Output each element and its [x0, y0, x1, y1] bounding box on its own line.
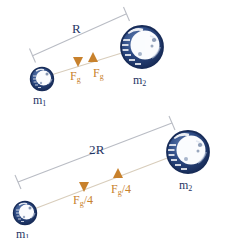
- force-arrow-on-m2-top: [88, 52, 98, 62]
- force-label-on-m2-bottom-subscript: g: [118, 188, 122, 197]
- force-label-on-m1-bottom: Fg/4: [73, 194, 93, 206]
- sphere-m1-bottom: [14, 202, 37, 225]
- force-label-on-m1-top-symbol: F: [70, 69, 77, 83]
- diagram-canvas: [0, 0, 225, 238]
- mass-label-m2-top: m2: [133, 74, 146, 86]
- separation-label-2r: 2R: [89, 143, 105, 156]
- sphere-m2-bottom: [167, 131, 209, 173]
- force-label-on-m1-bottom-subscript: g: [80, 199, 84, 208]
- force-arrow-on-m2-bottom: [113, 168, 123, 178]
- gravitation-diagram: R m1 m2 Fg Fg 2R m1 m2 Fg/4 Fg/4: [0, 0, 225, 238]
- sphere-m1-top: [31, 68, 54, 91]
- mass-label-m1-bottom: m1: [16, 228, 29, 238]
- force-label-on-m2-bottom-symbol: F: [111, 182, 118, 196]
- force-label-on-m1-top-subscript: g: [77, 75, 81, 84]
- mass-label-m2-top-subscript: 2: [142, 79, 146, 88]
- force-arrow-on-m1-bottom: [79, 182, 89, 192]
- force-label-on-m2-top: Fg: [93, 67, 104, 79]
- mass-label-m1-top: m1: [33, 94, 46, 106]
- mass-label-m1-bottom-symbol: m: [16, 227, 25, 238]
- force-label-on-m2-top-symbol: F: [93, 66, 100, 80]
- sphere-m2-top: [121, 26, 163, 68]
- force-label-on-m1-top: Fg: [70, 70, 81, 82]
- mass-label-m1-top-symbol: m: [33, 93, 42, 107]
- separation-axis-r: [51, 52, 125, 75]
- force-label-on-m1-bottom-suffix: /4: [84, 193, 93, 207]
- force-label-on-m1-bottom-symbol: F: [73, 193, 80, 207]
- mass-label-m2-bottom-symbol: m: [179, 178, 188, 192]
- mass-label-m2-top-symbol: m: [133, 73, 142, 87]
- separation-axis-2r: [34, 157, 170, 209]
- mass-label-m2-bottom: m2: [179, 179, 192, 191]
- force-label-on-m2-top-subscript: g: [100, 72, 104, 81]
- separation-label-r: R: [72, 22, 81, 35]
- mass-label-m1-top-subscript: 1: [42, 99, 46, 108]
- force-label-on-m2-bottom-suffix: /4: [122, 182, 131, 196]
- mass-label-m1-bottom-subscript: 1: [25, 233, 29, 238]
- force-label-on-m2-bottom: Fg/4: [111, 183, 131, 195]
- mass-label-m2-bottom-subscript: 2: [188, 184, 192, 193]
